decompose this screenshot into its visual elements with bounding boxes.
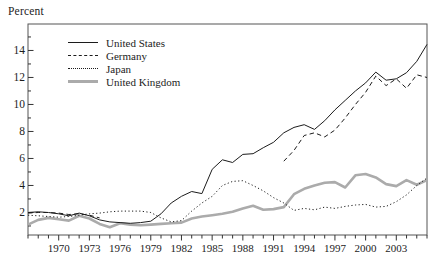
dotted-line-swatch-icon (68, 68, 98, 69)
x-tick-label: 1994 (293, 242, 316, 254)
x-tick-label: 1985 (201, 242, 224, 254)
x-tick-label: 2000 (355, 242, 378, 254)
y-tick-label: 8 (19, 125, 25, 137)
x-tick-label: 1997 (324, 242, 347, 254)
y-tick-label: 2 (19, 206, 25, 218)
series-line-united-kingdom (28, 174, 427, 227)
x-tick-label: 1982 (170, 242, 192, 254)
legend-item-united-states: United States (68, 36, 180, 49)
y-axis-unit-label: Percent (8, 5, 44, 17)
y-tick-label: 14 (14, 44, 26, 56)
y-tick-label: 10 (14, 98, 26, 110)
x-tick-label: 1979 (140, 242, 163, 254)
series-line-germany (28, 75, 427, 218)
y-tick-label: 4 (19, 179, 25, 191)
y-tick-label: 6 (19, 152, 25, 164)
legend-label: Germany (106, 50, 147, 62)
x-tick-label: 1988 (232, 242, 255, 254)
thick-gray-line-swatch-icon (68, 80, 98, 83)
legend-label: United States (106, 37, 165, 49)
plot-area: 2468101214197019731976197919821985198819… (0, 0, 439, 267)
legend-label: Japan (106, 63, 131, 75)
x-tick-label: 1970 (48, 242, 71, 254)
legend: United States Germany Japan United Kingd… (68, 36, 180, 88)
x-tick-label: 1973 (78, 242, 101, 254)
x-tick-label: 1976 (109, 242, 132, 254)
solid-line-swatch-icon (68, 42, 98, 43)
x-tick-label: 2003 (385, 242, 408, 254)
legend-item-japan: Japan (68, 62, 180, 75)
x-tick-label: 1991 (263, 242, 285, 254)
legend-item-united-kingdom: United Kingdom (68, 75, 180, 88)
legend-label: United Kingdom (106, 76, 180, 88)
legend-item-germany: Germany (68, 49, 180, 62)
y-tick-label: 12 (14, 71, 26, 83)
dashed-line-swatch-icon (68, 55, 98, 56)
line-chart: 2468101214197019731976197919821985198819… (0, 0, 439, 267)
